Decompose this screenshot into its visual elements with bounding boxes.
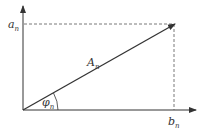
label-b-n: bn (168, 115, 180, 130)
label-phi-n: φn (42, 96, 55, 111)
phasor-diagram: an bn An φn (0, 0, 204, 131)
label-vector-a-n: An (86, 56, 100, 71)
label-a-n: an (8, 18, 20, 33)
